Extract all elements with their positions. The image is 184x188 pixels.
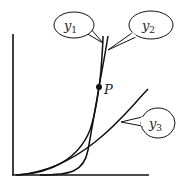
curve-y1: [18, 36, 103, 175]
diagram-canvas: P y1 y2 y3: [0, 0, 184, 188]
curve-y3: [16, 89, 148, 175]
callout-y1: y1: [54, 12, 103, 43]
callout-y3: y3: [121, 108, 175, 138]
point-p-marker: [96, 84, 102, 90]
callout-y2: y2: [108, 11, 173, 50]
point-p-label: P: [103, 82, 113, 97]
